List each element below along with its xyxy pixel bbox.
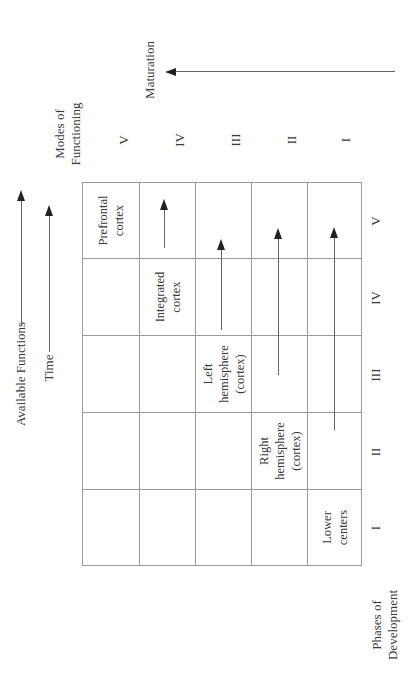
grid-cell: [195, 489, 252, 566]
progression-arrow-line: [278, 237, 279, 375]
right-hemisphere-cell: Righthemisphere(cortex): [251, 412, 308, 490]
phase-numeral-iv: IV: [368, 291, 384, 305]
progression-arrowhead-icon: [217, 239, 225, 250]
phase-numeral-i: I: [368, 526, 384, 530]
development-diagram: Available Functions Time Prefrontalcorte…: [0, 0, 413, 681]
maturation-label: Maturation: [142, 41, 158, 99]
prefrontal-cortex-cell: Prefrontalcortex: [82, 182, 140, 259]
phases-of-development-label: Phases ofDevelopment: [369, 590, 401, 660]
grid-cell: [251, 182, 308, 259]
left-hemisphere-cell: Lefthemisphere(cortex): [195, 335, 252, 413]
phase-numeral-v: V: [368, 216, 384, 225]
mode-numeral-ii: II: [284, 136, 300, 145]
grid-cell: [139, 489, 196, 566]
mode-numeral-v: V: [116, 135, 132, 144]
mode-numeral-iv: IV: [172, 133, 188, 147]
mode-numeral-i: I: [338, 138, 354, 142]
grid-cell: [139, 182, 196, 259]
grid-cell: [82, 412, 140, 490]
available-functions-arrowhead-icon: [17, 190, 25, 201]
lower-centers-cell: Lowercenters: [307, 489, 362, 566]
progression-arrow-line: [164, 208, 165, 248]
phase-numeral-iii: III: [368, 369, 384, 382]
grid-cell: [251, 335, 308, 413]
maturation-arrow-line: [172, 71, 395, 72]
modes-of-functioning-label: Modes ofFunctioning: [52, 103, 84, 166]
grid-cell: [82, 258, 140, 336]
grid-cell: [195, 258, 252, 336]
progression-arrowhead-icon: [160, 199, 168, 210]
grid-cell: [139, 335, 196, 413]
grid-cell: [251, 489, 308, 566]
grid-cell: [195, 412, 252, 490]
maturation-arrowhead-icon: [165, 68, 176, 76]
grid-cell: [82, 489, 140, 566]
available-functions-label: Available Functions: [13, 322, 29, 426]
phase-numeral-ii: II: [368, 448, 384, 457]
progression-arrowhead-icon: [330, 227, 338, 238]
grid-cell: [139, 412, 196, 490]
time-arrowhead-icon: [45, 205, 53, 216]
grid-cell: [251, 258, 308, 336]
integrated-cortex-cell: Integratedcortex: [139, 258, 196, 336]
progression-arrow-line: [334, 236, 335, 430]
grid-cell: [82, 335, 140, 413]
mode-numeral-iii: III: [228, 134, 244, 147]
time-label: Time: [41, 355, 57, 382]
progression-arrow-line: [221, 248, 222, 330]
available-functions-arrow-line: [21, 199, 22, 325]
time-arrow-line: [49, 214, 50, 352]
progression-arrowhead-icon: [274, 228, 282, 239]
